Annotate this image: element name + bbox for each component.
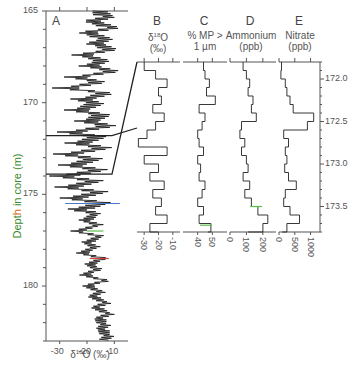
y-axis-label-part: Dept — [11, 215, 23, 238]
panel-e-letter: E — [292, 14, 306, 28]
panel-c-letter: C — [197, 14, 211, 28]
panel-d-title: Ammonium (ppb) — [222, 30, 280, 52]
panel-c-title-line1: % MP > — [187, 30, 222, 41]
oxygen-symbol: O — [160, 32, 168, 43]
panel-c-title-line2: 1 µm — [194, 41, 216, 52]
right-tick-label: 172.0 — [325, 73, 348, 83]
panel-b-x-tick-label: -10 — [168, 237, 178, 250]
right-tick-label: 173.0 — [325, 158, 348, 168]
y-tick-label: 180 — [16, 280, 38, 290]
right-tick-label: 173.5 — [325, 201, 348, 211]
y-tick-label: 170 — [16, 97, 38, 107]
panel-d-x-tick-label: 0 — [225, 237, 235, 242]
panel-e-x-tick-label: 0 — [274, 237, 284, 242]
figure-canvas — [0, 0, 361, 367]
x-tick-label: -10 — [105, 346, 118, 356]
panel-e-trace — [281, 62, 314, 232]
panel-c-trace — [198, 62, 216, 232]
panel-d-x-tick-label: 100 — [241, 237, 251, 252]
zoom-line-bottom — [46, 62, 137, 174]
panel-e-title-line1: Nitrate — [285, 30, 314, 41]
panel-b-letter: B — [150, 14, 164, 28]
panel-d-title-line2: (ppb) — [239, 41, 262, 52]
panel-a-trace — [49, 11, 118, 340]
panel-e-title-line2: (ppb) — [288, 41, 311, 52]
panel-b-x-tick-label: -20 — [154, 237, 164, 250]
panel-b-trace — [138, 62, 167, 232]
y-tick-label: 165 — [16, 5, 38, 15]
panel-d-title-line1: Ammonium — [226, 30, 277, 41]
panel-d-letter: D — [243, 14, 257, 28]
panel-a-letter: A — [52, 14, 60, 28]
panel-b-x-tick-label: -30 — [139, 237, 149, 250]
panel-e-title: Nitrate (ppb) — [278, 30, 322, 52]
right-tick-label: 172.5 — [325, 116, 348, 126]
panel-e-x-tick-label: 500 — [290, 237, 300, 252]
x-tick-label: -20 — [78, 346, 91, 356]
permil-unit: (‰) — [150, 43, 167, 54]
y-tick-label: 175 — [16, 188, 38, 198]
panel-b-title: δ18O (‰) — [138, 30, 178, 54]
panel-e-x-tick-label: 1000 — [306, 237, 316, 257]
x-tick-label: -30 — [51, 346, 64, 356]
panel-c-x-tick-label: 40 — [193, 237, 203, 247]
panel-d-x-tick-label: 200 — [258, 237, 268, 252]
y-axis-label-highlight: h — [11, 209, 23, 215]
y-axis-label-part: in core (m) — [11, 154, 23, 210]
panel-c-x-tick-label: 50 — [207, 237, 217, 247]
